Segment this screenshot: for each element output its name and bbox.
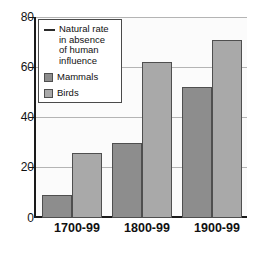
swatch-icon-birds bbox=[44, 89, 53, 98]
y-tick-label-0: 0 bbox=[8, 212, 34, 224]
y-tick-mark-60 bbox=[29, 67, 34, 68]
legend-item-natural-rate: Natural rate in absence of human influen… bbox=[44, 24, 115, 66]
bar-birds-1700-99 bbox=[72, 153, 102, 218]
x-tick-label-1700-99: 1700-99 bbox=[45, 221, 109, 235]
y-axis: 80 60 40 20 0 bbox=[0, 0, 34, 255]
legend-label-mammals: Mammals bbox=[57, 71, 98, 82]
legend-item-mammals: Mammals bbox=[44, 71, 115, 82]
bar-mammals-1900-99 bbox=[182, 87, 212, 218]
y-tick-mark-40 bbox=[29, 117, 34, 118]
legend-label-natural-rate: Natural rate in absence of human influen… bbox=[59, 24, 109, 66]
y-tick-mark-80 bbox=[29, 17, 34, 18]
bar-mammals-1700-99 bbox=[42, 195, 72, 218]
bar-birds-1800-99 bbox=[142, 62, 172, 218]
x-tick-label-1900-99: 1900-99 bbox=[185, 221, 249, 235]
chart-legend: Natural rate in absence of human influen… bbox=[38, 19, 122, 103]
bar-mammals-1800-99 bbox=[112, 143, 142, 218]
swatch-icon-mammals bbox=[44, 73, 53, 82]
bar-birds-1900-99 bbox=[212, 40, 242, 218]
bar-chart: 80 60 40 20 0 1700-99 1800-99 1900-99 Na… bbox=[0, 0, 258, 255]
legend-item-birds: Birds bbox=[44, 87, 115, 98]
legend-label-birds: Birds bbox=[57, 87, 79, 98]
x-tick-label-1800-99: 1800-99 bbox=[115, 221, 179, 235]
line-marker-icon bbox=[44, 25, 55, 35]
y-tick-mark-20 bbox=[29, 167, 34, 168]
